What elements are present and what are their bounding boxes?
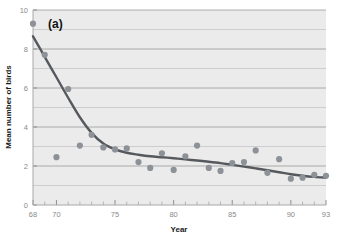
x-tick-label: 85 <box>228 210 236 219</box>
data-point <box>124 145 130 151</box>
y-tick-label: 2 <box>24 162 28 171</box>
data-point <box>241 159 247 165</box>
data-point <box>30 21 36 27</box>
data-point <box>288 176 294 182</box>
data-point <box>53 154 59 160</box>
data-point <box>100 144 106 150</box>
y-tick-label: 0 <box>24 201 28 210</box>
data-point <box>229 160 235 166</box>
bird-count-scatter-chart: 68707580859093 0246810 (a) Year Mean num… <box>0 0 346 242</box>
data-point <box>217 168 223 174</box>
data-point <box>253 147 259 153</box>
data-point <box>311 172 317 178</box>
y-tick-label: 4 <box>24 123 28 132</box>
data-point <box>276 156 282 162</box>
data-point <box>264 170 270 176</box>
x-axis-title: Year <box>171 225 188 234</box>
x-tick-label: 68 <box>29 210 37 219</box>
y-tick-label: 8 <box>24 45 28 54</box>
x-tick-label: 90 <box>287 210 295 219</box>
data-point <box>89 132 95 138</box>
data-point <box>42 52 48 58</box>
panel-label: (a) <box>48 17 63 31</box>
data-point <box>299 175 305 181</box>
x-tick-label: 75 <box>111 210 119 219</box>
data-point <box>147 165 153 171</box>
data-point <box>182 153 188 159</box>
data-point <box>135 159 141 165</box>
data-point <box>323 173 329 179</box>
data-point <box>159 150 165 156</box>
y-tick-label: 10 <box>20 6 28 15</box>
data-point <box>112 146 118 152</box>
data-point <box>65 86 71 92</box>
chart-figure: 68707580859093 0246810 (a) Year Mean num… <box>0 0 346 242</box>
x-tick-label: 70 <box>52 210 60 219</box>
x-tick-label: 93 <box>322 210 330 219</box>
y-axis-title: Mean number of birds <box>4 65 13 149</box>
data-point <box>206 165 212 171</box>
data-point <box>171 167 177 173</box>
data-point <box>77 142 83 148</box>
x-tick-label: 80 <box>169 210 177 219</box>
y-tick-label: 6 <box>24 84 28 93</box>
data-point <box>194 142 200 148</box>
